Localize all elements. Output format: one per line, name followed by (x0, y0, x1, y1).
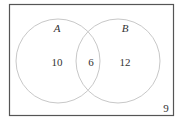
venn-diagram: A B 10 6 12 9 (0, 0, 177, 122)
set-b-label: B (122, 22, 129, 34)
set-b-only-count: 12 (120, 56, 131, 68)
set-a-label: A (53, 22, 61, 34)
outside-count: 9 (163, 102, 169, 114)
set-a-only-count: 10 (52, 56, 64, 68)
intersection-count: 6 (88, 56, 94, 68)
